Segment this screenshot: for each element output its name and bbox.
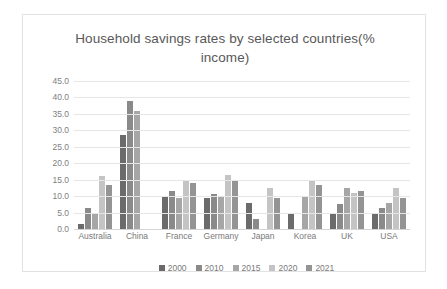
bar[interactable] bbox=[288, 214, 294, 229]
y-axis: 45.040.035.030.025.020.015.010.05.00.0 bbox=[40, 81, 72, 229]
gridline bbox=[74, 114, 410, 115]
x-axis-tick-label: Japan bbox=[242, 231, 284, 241]
bar-group bbox=[242, 81, 284, 229]
bar[interactable] bbox=[106, 185, 112, 229]
x-axis-tick-label: Korea bbox=[284, 231, 326, 241]
legend-label: 2020 bbox=[278, 263, 297, 273]
gridline bbox=[74, 163, 410, 164]
bar[interactable] bbox=[351, 193, 357, 229]
bar[interactable] bbox=[372, 213, 378, 229]
y-axis-tick-label: 40.0 bbox=[52, 92, 69, 102]
legend-item[interactable]: 2021 bbox=[306, 263, 334, 273]
gridline bbox=[74, 147, 410, 148]
x-axis-tick-label: Australia bbox=[74, 231, 116, 241]
x-axis-tick-label: USA bbox=[368, 231, 410, 241]
legend-swatch-icon bbox=[159, 265, 165, 271]
bar[interactable] bbox=[85, 208, 91, 229]
bar[interactable] bbox=[134, 111, 140, 229]
bar[interactable] bbox=[330, 213, 336, 229]
bar-group bbox=[158, 81, 200, 229]
axis-baseline bbox=[74, 229, 410, 230]
legend-item[interactable]: 2010 bbox=[196, 263, 224, 273]
plot-canvas bbox=[74, 81, 410, 229]
bar-group bbox=[326, 81, 368, 229]
gridline bbox=[74, 196, 410, 197]
bar[interactable] bbox=[386, 203, 392, 229]
legend-swatch-icon bbox=[233, 265, 239, 271]
gridline bbox=[74, 180, 410, 181]
bar[interactable] bbox=[127, 101, 133, 229]
bar-group bbox=[74, 81, 116, 229]
bar[interactable] bbox=[379, 208, 385, 229]
x-axis-tick-label: China bbox=[116, 231, 158, 241]
y-axis-tick-label: 25.0 bbox=[52, 142, 69, 152]
bar-group bbox=[116, 81, 158, 229]
legend-item[interactable]: 2020 bbox=[269, 263, 297, 273]
bar[interactable] bbox=[120, 135, 126, 229]
legend-swatch-icon bbox=[269, 265, 275, 271]
gridline bbox=[74, 130, 410, 131]
bar-group bbox=[284, 81, 326, 229]
legend-swatch-icon bbox=[196, 265, 202, 271]
chart-legend: 20002010201520202021 bbox=[23, 263, 447, 273]
bar-group bbox=[200, 81, 242, 229]
bar[interactable] bbox=[92, 213, 98, 229]
bar[interactable] bbox=[393, 188, 399, 229]
y-axis-tick-label: 35.0 bbox=[52, 109, 69, 119]
legend-label: 2000 bbox=[168, 263, 187, 273]
bar[interactable] bbox=[309, 180, 315, 229]
bar[interactable] bbox=[232, 180, 238, 229]
bar[interactable] bbox=[246, 203, 252, 229]
bar[interactable] bbox=[316, 185, 322, 229]
legend-label: 2015 bbox=[242, 263, 261, 273]
bar[interactable] bbox=[267, 188, 273, 229]
bar[interactable] bbox=[337, 204, 343, 229]
gridline bbox=[74, 97, 410, 98]
bar-group bbox=[368, 81, 410, 229]
bar[interactable] bbox=[183, 180, 189, 229]
y-axis-tick-label: 15.0 bbox=[52, 175, 69, 185]
bar[interactable] bbox=[225, 175, 231, 229]
y-axis-tick-label: 10.0 bbox=[52, 191, 69, 201]
x-axis: AustraliaChinaFranceGermanyJapanKoreaUKU… bbox=[74, 231, 410, 241]
legend-label: 2021 bbox=[315, 263, 334, 273]
chart-title: Household savings rates by selected coun… bbox=[57, 29, 393, 67]
bar[interactable] bbox=[190, 183, 196, 229]
y-axis-tick-label: 0.0 bbox=[57, 224, 69, 234]
plot-area: 45.040.035.030.025.020.015.010.05.00.0 bbox=[40, 81, 410, 229]
y-axis-tick-label: 5.0 bbox=[57, 208, 69, 218]
y-axis-tick-label: 30.0 bbox=[52, 125, 69, 135]
chart-frame: Household savings rates by selected coun… bbox=[22, 14, 426, 272]
bar[interactable] bbox=[344, 188, 350, 229]
y-axis-tick-label: 20.0 bbox=[52, 158, 69, 168]
gridline bbox=[74, 81, 410, 82]
legend-swatch-icon bbox=[306, 265, 312, 271]
y-axis-tick-label: 45.0 bbox=[52, 76, 69, 86]
bar[interactable] bbox=[253, 219, 259, 229]
legend-item[interactable]: 2000 bbox=[159, 263, 187, 273]
bar[interactable] bbox=[99, 176, 105, 229]
bars-layer bbox=[74, 81, 410, 229]
legend-label: 2010 bbox=[205, 263, 224, 273]
x-axis-tick-label: France bbox=[158, 231, 200, 241]
legend-item[interactable]: 2015 bbox=[233, 263, 261, 273]
x-axis-tick-label: UK bbox=[326, 231, 368, 241]
x-axis-tick-label: Germany bbox=[200, 231, 242, 241]
gridline bbox=[74, 213, 410, 214]
